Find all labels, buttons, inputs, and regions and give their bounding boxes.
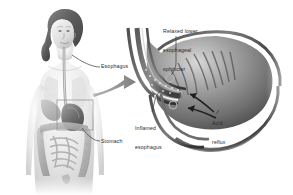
acid-reflux-illustration: Relaxed lower esophageal sphincter Esoph… (0, 0, 293, 195)
leader-line-stomach (82, 128, 100, 141)
left-panel-leader-lines (0, 0, 293, 195)
leader-line-esophagus (72, 55, 100, 67)
